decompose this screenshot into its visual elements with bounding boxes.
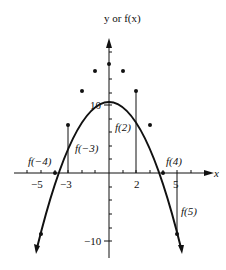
y-tick-label-10: 10 xyxy=(90,99,102,111)
function-graph: y or f(x) x −5 −3 2 5 10 −10 f(−4) f(−3)… xyxy=(0,0,226,270)
y-tick-label-minus10: −10 xyxy=(84,235,102,247)
annotation-f-5: f(5) xyxy=(181,205,197,218)
curve-left-arrow-icon xyxy=(34,244,40,254)
x-axis xyxy=(14,170,214,176)
x-tick-label-minus3: −3 xyxy=(60,178,72,190)
annotation-f-minus3: f(−3) xyxy=(75,142,99,155)
x-axis-arrow-icon xyxy=(204,170,214,176)
annotation-f-4: f(4) xyxy=(166,155,182,168)
y-axis xyxy=(104,38,112,258)
value-lines xyxy=(68,91,177,234)
x-tick-label-2: 2 xyxy=(134,178,140,190)
y-axis-arrow-icon xyxy=(106,38,112,48)
x-tick-label-minus5: −5 xyxy=(31,178,43,190)
annotation-f-2: f(2) xyxy=(115,121,131,134)
x-axis-label: x xyxy=(213,167,219,179)
curve-right-arrow-icon xyxy=(178,245,184,254)
y-axis-label: y or f(x) xyxy=(104,12,141,25)
annotation-f-minus4: f(−4) xyxy=(28,155,52,168)
x-tick-label-5: 5 xyxy=(173,178,179,190)
